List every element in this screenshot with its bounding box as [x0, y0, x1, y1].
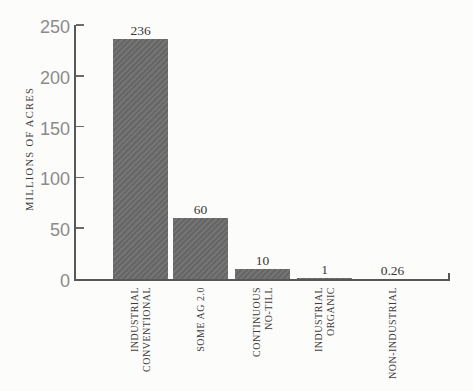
bar-value-label: 10: [256, 252, 270, 269]
bar-value-label: 0.26: [381, 262, 405, 279]
x-axis-end-tick: [448, 273, 450, 279]
y-tick: [76, 227, 84, 229]
y-tick-label: 50: [0, 220, 70, 240]
y-tick-label: 200: [0, 68, 70, 88]
category-label: NON-INDUSTRIAL: [387, 287, 399, 379]
y-tick-label: 250: [0, 17, 70, 37]
bar: [173, 218, 228, 279]
y-tick-label: 150: [0, 119, 70, 139]
y-tick: [76, 75, 84, 77]
y-tick-label: 0: [0, 271, 70, 291]
bar: [297, 278, 352, 279]
bar-value-label: 1: [321, 261, 328, 278]
bar-chart-figure: MILLIONS OF ACRES 050100150200250236INDU…: [0, 0, 473, 391]
y-tick: [76, 177, 84, 179]
category-label: INDUSTRIAL CONVENTIONAL: [129, 287, 153, 372]
y-tick: [76, 24, 84, 26]
bar-value-label: 236: [130, 22, 150, 39]
category-label: INDUSTRIAL ORGANIC: [313, 287, 337, 352]
y-axis-line: [74, 25, 76, 281]
y-axis-title: MILLIONS OF ACRES: [24, 87, 35, 211]
bar: [113, 39, 168, 279]
y-tick: [76, 126, 84, 128]
x-axis-line: [74, 279, 450, 281]
y-tick-label: 100: [0, 169, 70, 189]
bar: [235, 269, 290, 279]
category-label: SOME AG 2.0: [195, 287, 207, 352]
category-label: CONTINUOUS NO-TILL: [251, 287, 275, 357]
bar-value-label: 60: [194, 201, 208, 218]
